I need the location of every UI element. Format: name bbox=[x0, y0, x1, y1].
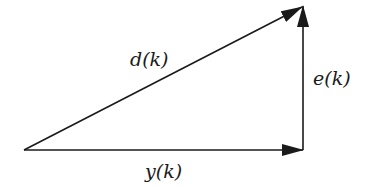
vector-d-arrow bbox=[24, 7, 302, 150]
vector-triangle-diagram: d(k) e(k) y(k) bbox=[0, 0, 367, 189]
vector-triangle-svg bbox=[0, 0, 367, 189]
vector-e-label: e(k) bbox=[313, 69, 351, 88]
vector-y-label: y(k) bbox=[145, 162, 182, 181]
vector-d-label: d(k) bbox=[130, 50, 169, 69]
